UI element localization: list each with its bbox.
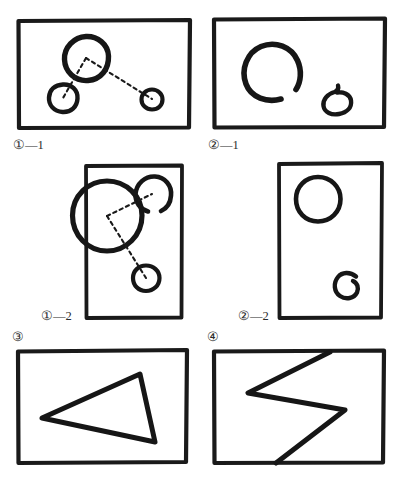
- panel-1-1: [19, 20, 191, 128]
- zigzag-chevron: [248, 352, 345, 463]
- panel-2-1: [214, 19, 385, 128]
- panel-3: [18, 350, 187, 463]
- panel-label-3: ③: [12, 331, 24, 344]
- triangle: [42, 374, 155, 442]
- figure-drawing: [0, 0, 394, 486]
- panel-label-1-2: ①—2: [41, 310, 72, 323]
- lower-open-circle: [335, 273, 358, 298]
- panel-1-2: [73, 166, 183, 319]
- figure-sheet: ①—1 ②—1 ①—2 ②—2 ③ ④: [0, 0, 394, 486]
- panel-4: [214, 351, 384, 464]
- panel-label-2-1: ②—1: [208, 139, 239, 152]
- panel-2-2-frame: [279, 163, 382, 318]
- panel-3-frame: [18, 350, 187, 463]
- upper-right-circle: [135, 176, 171, 211]
- panel-2-2: [279, 163, 382, 318]
- large-open-circle: [244, 44, 300, 100]
- upper-circle: [296, 177, 341, 222]
- small-open-circle: [323, 86, 351, 115]
- panel-label-1-1: ①—1: [13, 139, 44, 152]
- panel-label-4: ④: [207, 331, 219, 344]
- panel-label-2-2: ②—2: [238, 310, 269, 323]
